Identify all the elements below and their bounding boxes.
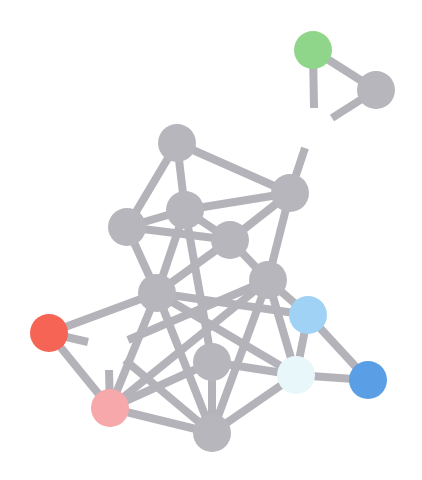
graph-node-n12 bbox=[193, 343, 231, 381]
graph-node-n3 bbox=[158, 124, 196, 162]
graph-node-n8 bbox=[249, 261, 287, 299]
graph-node-n1 bbox=[294, 31, 332, 69]
graph-node-n7 bbox=[211, 221, 249, 259]
graph-node-n9 bbox=[138, 274, 176, 312]
graph-node-n16 bbox=[193, 414, 231, 452]
graph-node-n2 bbox=[357, 71, 395, 109]
graph-node-n6 bbox=[108, 208, 146, 246]
graph-node-n5 bbox=[166, 191, 204, 229]
graph-node-n13 bbox=[277, 356, 315, 394]
graph-node-n10 bbox=[289, 296, 327, 334]
graph-node-n4 bbox=[271, 174, 309, 212]
graph-node-n15 bbox=[91, 389, 129, 427]
graph-node-n14 bbox=[349, 361, 387, 399]
graph-node-n11 bbox=[30, 314, 68, 352]
network-graph bbox=[0, 0, 422, 480]
